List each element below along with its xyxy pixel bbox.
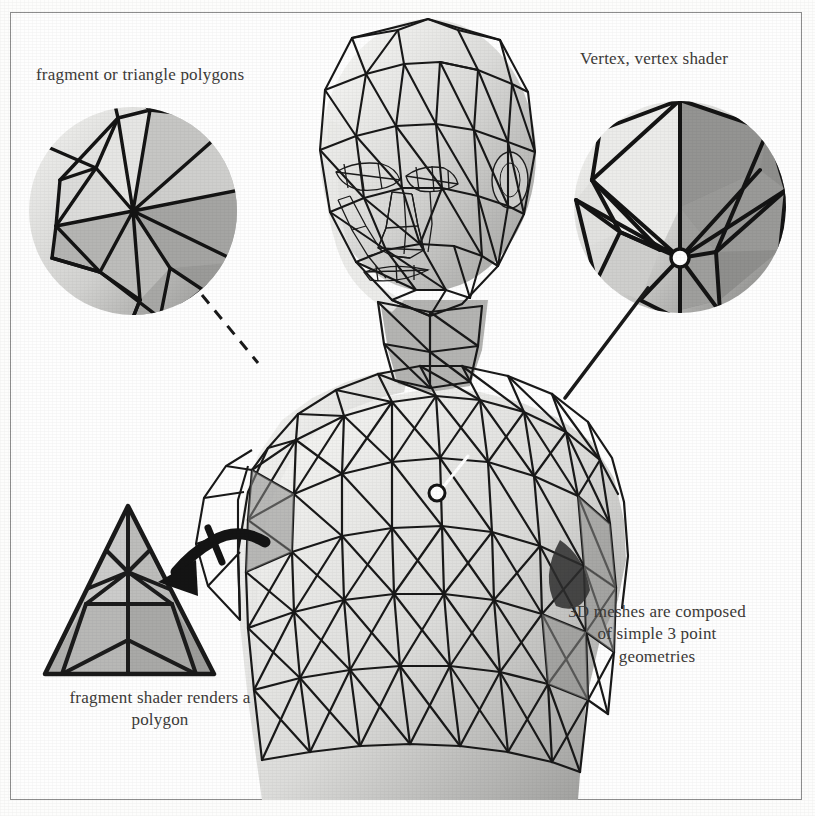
figure-border — [10, 12, 802, 800]
caption-mesh-composed: 3D meshes are composed of simple 3 point… — [532, 601, 782, 668]
caption-fragment-polygons: fragment or triangle polygons — [36, 64, 244, 86]
caption-fragment-shader: fragment shader renders a polygon — [25, 687, 295, 732]
caption-vertex-shader: Vertex, vertex shader — [580, 48, 728, 70]
figure-page: fragment or triangle polygons Vertex, ve… — [0, 0, 815, 816]
